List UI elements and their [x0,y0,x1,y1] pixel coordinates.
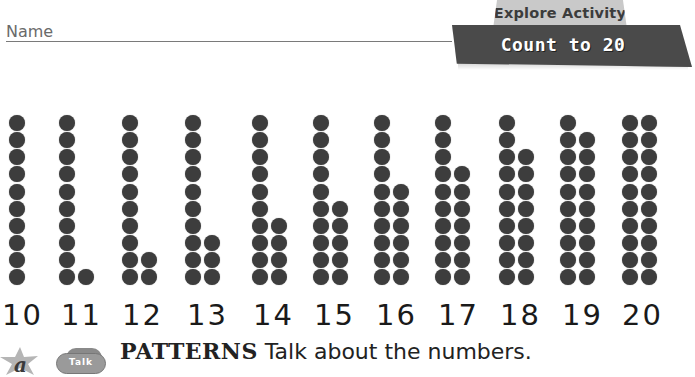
counter-dot [622,235,638,251]
counter-dot [204,252,220,268]
counter-dot [252,149,268,165]
counter-dot [9,252,25,268]
counter-dot [141,269,157,285]
counter-dot [374,235,390,251]
counter-dot [332,201,348,217]
banner-tab-label: Explore Activity [493,5,627,21]
counter-dot [185,252,201,268]
counter-dot [499,149,515,165]
counter-dot [122,252,138,268]
counter-dot [518,218,534,234]
counter-dot [59,115,75,131]
counter-dot [454,269,470,285]
counter-dot [374,269,390,285]
counter-dot [9,201,25,217]
counter-dot [78,269,94,285]
counter-dot [454,201,470,217]
counter-dot [560,235,576,251]
counter-dot [641,166,657,182]
counter-dot [252,201,268,217]
counter-dot [435,132,451,148]
counter-dot [435,218,451,234]
counter-dot [313,235,329,251]
counter-dot [122,218,138,234]
counter-dot [579,166,595,182]
counter-dot [185,115,201,131]
counter-dot [374,184,390,200]
counter-dot [518,149,534,165]
counter-dot [622,252,638,268]
counter-dot [454,184,470,200]
counter-dot [59,166,75,182]
counter-dot [622,184,638,200]
number-label: 14 [253,298,294,332]
counter-dot [313,269,329,285]
instruction: Talk about the numbers. [258,339,532,364]
counter-dot [499,218,515,234]
counter-dot [579,184,595,200]
counter-dot [579,235,595,251]
counter-dot [122,201,138,217]
counter-dot [185,149,201,165]
counter-dot [641,269,657,285]
counter-dot [9,132,25,148]
counter-dot [313,115,329,131]
counter-dot [9,218,25,234]
counter-dot [499,201,515,217]
counter-dot [435,115,451,131]
counter-dot [518,166,534,182]
counter-dot [641,149,657,165]
number-label: 11 [61,298,102,332]
counter-dot [332,269,348,285]
counter-dot [374,115,390,131]
counter-dot [122,115,138,131]
counter-dot [518,184,534,200]
counter-dot [641,218,657,234]
counter-dot [9,115,25,131]
counter-dot [185,218,201,234]
counter-dot [641,252,657,268]
counter-dot [332,235,348,251]
counter-dot [499,115,515,131]
counter-dot [641,132,657,148]
talk-icon-label: Talk [57,357,105,367]
counter-dot [579,269,595,285]
counter-dot [579,218,595,234]
counter-dot [393,235,409,251]
counter-dot [252,115,268,131]
counter-dot [622,166,638,182]
counter-dot [313,132,329,148]
counter-dot [579,149,595,165]
counter-dot [560,269,576,285]
counter-dot [622,115,638,131]
counter-dot [252,184,268,200]
name-line[interactable] [6,41,452,42]
counter-dot [393,218,409,234]
counter-dot [9,184,25,200]
counter-dot [579,252,595,268]
counter-dot [622,218,638,234]
algebra-star-icon: a [0,347,38,375]
number-label: 18 [500,298,541,332]
counter-dot [393,201,409,217]
counter-dot [641,184,657,200]
counter-dot [252,269,268,285]
talk-icon: Talk [56,348,104,372]
counter-dot [622,149,638,165]
counter-dot [59,235,75,251]
counter-dot [313,149,329,165]
counter-dot [9,235,25,251]
counter-dot [374,149,390,165]
counter-dot [435,201,451,217]
counter-dot [393,184,409,200]
counter-dot [252,218,268,234]
counter-dot [185,166,201,182]
counter-dot [122,132,138,148]
counter-dot [313,166,329,182]
counter-dot [252,235,268,251]
counter-dot [313,252,329,268]
counter-dot [435,149,451,165]
counter-dot [252,252,268,268]
counter-dot [185,201,201,217]
counter-dot [313,201,329,217]
